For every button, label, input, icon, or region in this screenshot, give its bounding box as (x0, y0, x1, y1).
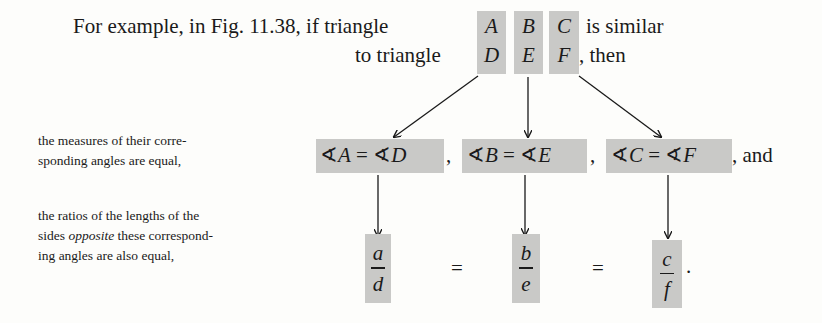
trailing-and: , and (732, 143, 773, 168)
angle-equation-3: ∢C = ∢F (611, 143, 696, 168)
comma: , (446, 143, 451, 168)
denominator: d (373, 272, 384, 296)
arrow-d-to-angle-a (394, 76, 478, 137)
angle-symbol: ∢ (665, 143, 683, 167)
fraction-bar (519, 267, 533, 269)
numerator: c (662, 247, 671, 271)
fraction-a-over-d: a d (365, 234, 391, 303)
equals-sign: = (451, 256, 463, 281)
fraction-c-over-f: c f (652, 240, 682, 308)
angle-symbol: ∢ (373, 143, 391, 167)
numerator: a (373, 241, 384, 265)
angle-equation-1: ∢A = ∢D (320, 143, 406, 168)
ratios-label-line-1: the ratios of the lengths of the (38, 206, 199, 226)
denominator: f (664, 277, 670, 301)
angle-equation-2: ∢B = ∢E (467, 143, 551, 168)
equals-sign: = (592, 256, 604, 281)
arrow-f-to-angle-c (579, 76, 661, 137)
angle-symbol: ∢ (320, 143, 338, 167)
angle-symbol: ∢ (611, 143, 629, 167)
angle-symbol: ∢ (467, 143, 485, 167)
trailing-period: . (686, 254, 691, 279)
fraction-b-over-e: b e (512, 234, 540, 303)
ratios-label-line-3: ing angles are also equal, (38, 246, 174, 266)
numerator: b (521, 241, 532, 265)
angles-label-line-1: the measures of their corre- (38, 131, 186, 151)
denominator: e (521, 272, 530, 296)
fraction-bar (660, 273, 674, 275)
emphasis-opposite: opposite (68, 228, 114, 243)
ratios-label-line-2: sides opposite these correspond- (38, 226, 213, 246)
comma: , (590, 143, 595, 168)
angle-symbol: ∢ (520, 143, 538, 167)
fraction-bar (371, 267, 385, 269)
angles-label-line-2: sponding angles are equal, (38, 151, 181, 171)
